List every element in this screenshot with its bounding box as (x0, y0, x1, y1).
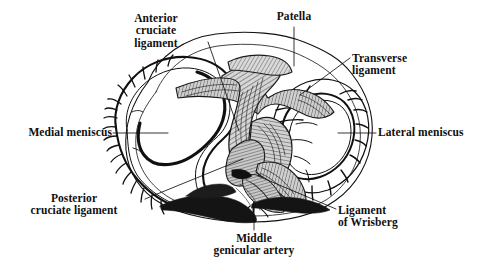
label-patella: Patella (248, 10, 340, 22)
label-medial-meniscus: Medial meniscus (4, 126, 112, 138)
label-ligament-of-wrisberg: Ligament of Wrisberg (338, 204, 478, 229)
label-transverse-ligament: Transverse ligament (352, 52, 482, 77)
anatomical-figure-knee-menisci: Anterior cruciate ligament Patella Trans… (0, 0, 489, 276)
leader-transverse-ligament (300, 58, 350, 95)
label-lateral-meniscus: Lateral meniscus (378, 126, 489, 138)
label-posterior-cruciate-ligament: Posterior cruciate ligament (8, 192, 140, 217)
label-middle-genicular-artery: Middle genicular artery (180, 232, 328, 257)
label-anterior-cruciate-ligament: Anterior cruciate ligament (104, 12, 208, 49)
